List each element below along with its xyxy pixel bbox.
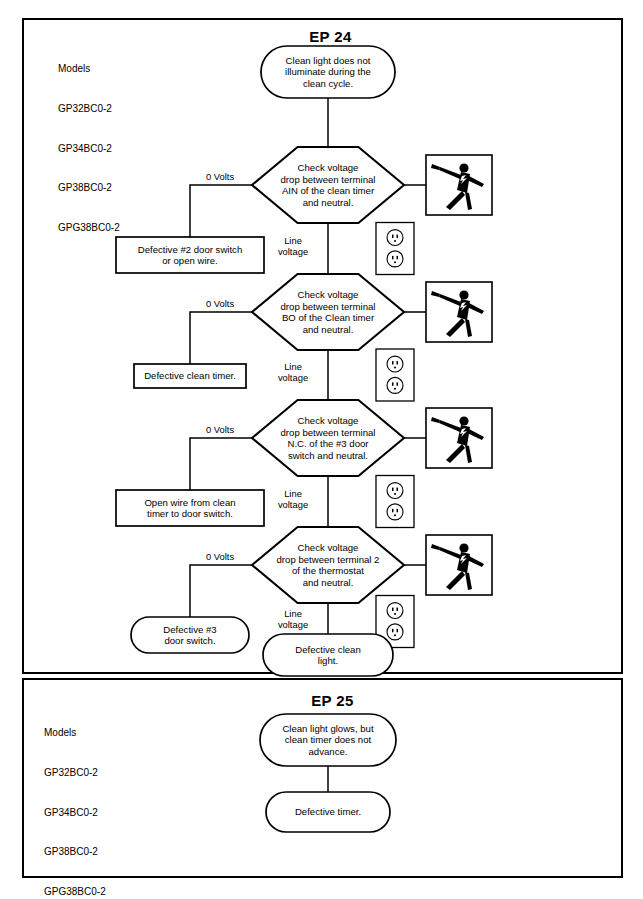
step-2-electric-shock-icon: [426, 282, 492, 342]
step-3-electric-shock-icon: [426, 408, 492, 468]
model-number: GPG38BC0-2: [44, 885, 106, 898]
step-4-electric-shock-icon: [426, 535, 492, 595]
step-2-branch-left-label: 0 Volts: [206, 298, 234, 309]
step-3-branch-down-label: Linevoltage: [278, 488, 308, 510]
step-1-branch-left-label: 0 Volts: [206, 171, 234, 182]
step-4-connector-left: [190, 565, 252, 617]
step-4-branch-down-label: Linevoltage: [278, 608, 308, 630]
step-1-connector-left: [190, 185, 252, 237]
step-3-duplex-outlet-icon: [376, 476, 414, 528]
step-1-electric-shock-icon: [426, 155, 492, 215]
step-4-branch-left-label: 0 Volts: [206, 551, 234, 562]
step-2-connector-left: [190, 312, 252, 364]
step-2-result-label: Defective clean timer.: [144, 370, 236, 381]
end-node-label: Defective timer.: [295, 806, 361, 817]
step-4-result-label: Defective #3door switch.: [163, 624, 216, 646]
flowchart-ep25: Clean light glows, butclean timer does n…: [24, 680, 621, 876]
panel-ep25: Models GP32BC0-2 GP34BC0-2 GP38BC0-2 GPG…: [22, 678, 623, 878]
step-2-duplex-outlet-icon: [376, 349, 414, 401]
step-3-branch-left-label: 0 Volts: [206, 424, 234, 435]
step-1-duplex-outlet-icon: [376, 223, 414, 275]
step-2-branch-down-label: Linevoltage: [278, 361, 308, 383]
panel-ep24: Models GP32BC0-2 GP34BC0-2 GP38BC0-2 GPG…: [22, 18, 623, 674]
step-3-connector-left: [190, 438, 252, 490]
step-1-branch-down-label: Linevoltage: [278, 235, 308, 257]
flowchart-ep24: Clean light does notilluminate during th…: [24, 20, 621, 672]
step-3-result-label: Open wire from cleantimer to door switch…: [144, 497, 235, 519]
